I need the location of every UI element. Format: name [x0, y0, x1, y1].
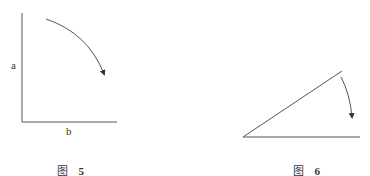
caption-prefix: 图	[57, 165, 68, 176]
figure-6	[243, 71, 360, 137]
caption-prefix: 图	[293, 165, 304, 176]
diagram-canvas	[0, 0, 370, 176]
caption-number: 5	[79, 165, 85, 176]
curved-arrow-icon	[46, 19, 104, 74]
figure-5	[22, 13, 117, 122]
figure-5-caption: 图 5	[51, 155, 84, 176]
axis-label-a: a	[11, 60, 16, 71]
axis-label-b: b	[66, 126, 72, 137]
figure-6-caption: 图 6	[287, 155, 320, 176]
curved-arrow-icon	[341, 77, 352, 117]
upper-ray	[243, 71, 342, 137]
caption-number: 6	[315, 165, 321, 176]
